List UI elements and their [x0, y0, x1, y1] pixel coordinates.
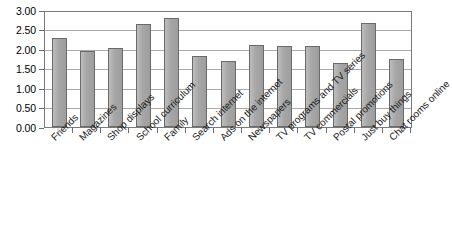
x-axis-label: Friends [49, 112, 80, 143]
x-axis-label: Family [162, 114, 190, 142]
